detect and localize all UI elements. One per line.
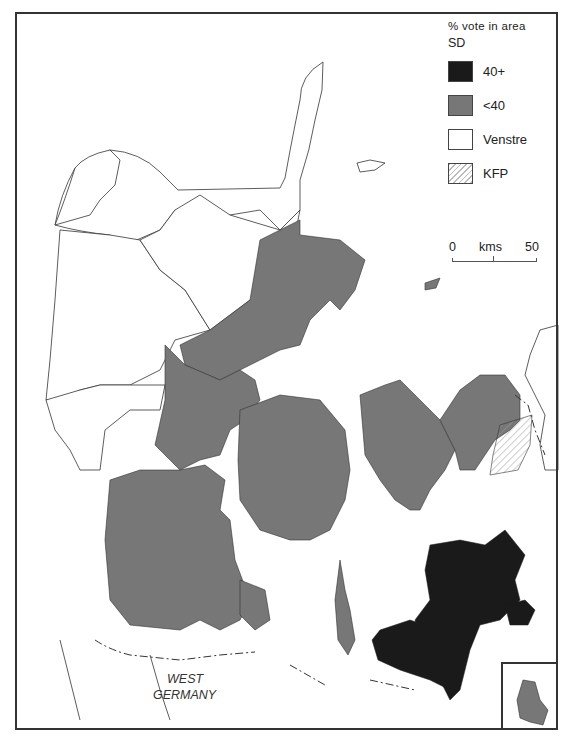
swatch-hatched: [448, 163, 473, 184]
region-funen: [238, 395, 350, 540]
swatch-white: [448, 129, 473, 150]
region-als: [240, 580, 270, 630]
legend-label: <40: [483, 98, 505, 113]
scale-unit: kms: [479, 240, 502, 254]
swatch-black: [448, 61, 473, 82]
legend-label: KFP: [483, 166, 508, 181]
island-anholt: [357, 160, 385, 172]
scale-end: 50: [525, 240, 539, 254]
sweden-coastline: [525, 325, 558, 470]
legend-item-40plus: 40+: [448, 58, 568, 84]
region-south-jutland: [105, 465, 250, 630]
legend-title: % vote in area: [448, 20, 568, 32]
map-legend: % vote in area SD 40+ <40 Venstre KFP: [448, 20, 568, 186]
scale-start: 0: [449, 240, 456, 254]
border-line-germany: [95, 640, 255, 660]
region-zealand-west: [360, 380, 455, 510]
border-line-sea-south: [290, 665, 325, 685]
swatch-grey: [448, 95, 473, 116]
border-line-sea-southeast: [370, 680, 415, 690]
legend-item-under40: <40: [448, 92, 568, 118]
scale-bar: 0 kms 50: [449, 240, 539, 264]
legend-label: 40+: [483, 64, 505, 79]
legend-party: SD: [448, 36, 568, 50]
country-label-line1: WEST: [167, 672, 203, 686]
region-southwest-jutland: [46, 385, 165, 470]
region-island-small: [425, 278, 440, 290]
legend-item-venstre: Venstre: [448, 126, 568, 152]
legend-item-kfp: KFP: [448, 160, 568, 186]
scale-bar-line: [452, 258, 537, 262]
region-langeland: [335, 560, 355, 655]
scale-tick: [493, 256, 494, 261]
west-germany-coastline: [60, 640, 170, 720]
country-label-line2: GERMANY: [153, 688, 216, 702]
legend-label: Venstre: [483, 132, 527, 147]
region-mon: [505, 600, 535, 625]
bornholm-inset-frame: [501, 662, 558, 730]
